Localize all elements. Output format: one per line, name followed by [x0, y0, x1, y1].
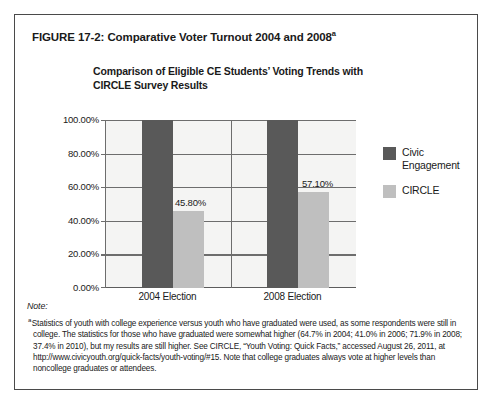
- figure-caption-superscript: a: [332, 29, 336, 38]
- chart-legend: Civic Engagement CIRCLE: [383, 146, 475, 211]
- note-body-text: Statistics of youth with college experie…: [32, 319, 462, 374]
- legend-swatch-icon: [383, 147, 396, 160]
- bar-civic-engagement-2004[interactable]: [142, 120, 173, 288]
- tick-mark: [101, 287, 106, 288]
- note-heading: Note:: [27, 301, 467, 311]
- y-tick-label: 60.00%: [35, 182, 99, 192]
- tick-mark: [101, 221, 106, 222]
- y-tick-label: 80.00%: [35, 149, 99, 159]
- tick-mark: [101, 154, 106, 155]
- figure-caption-text: FIGURE 17-2: Comparative Voter Turnout 2…: [32, 31, 332, 43]
- note-block: Note: aStatistics of youth with college …: [27, 301, 467, 375]
- tick-mark: [101, 120, 106, 121]
- data-label-circle-2004: 45.80%: [175, 197, 206, 208]
- y-tick-label: 100.00%: [35, 115, 99, 125]
- bar-civic-engagement-2008[interactable]: [267, 120, 298, 288]
- tick-mark: [101, 187, 106, 188]
- note-text: aStatistics of youth with college experi…: [27, 314, 467, 375]
- legend-swatch-icon: [383, 185, 396, 198]
- legend-label: Civic Engagement: [402, 146, 475, 171]
- note-superscript: a: [28, 316, 31, 323]
- figure-box: FIGURE 17-2: Comparative Voter Turnout 2…: [14, 14, 478, 390]
- bar-circle-2008[interactable]: [298, 192, 329, 288]
- chart: Comparison of Eligible CE Students’ Voti…: [15, 51, 477, 301]
- plot-area: 45.80% 57.10%: [105, 120, 356, 288]
- chart-title: Comparison of Eligible CE Students’ Voti…: [93, 64, 383, 92]
- y-axis: 100.00% 80.00% 60.00% 40.00% 20.00% 0.00…: [29, 120, 99, 288]
- legend-item-civic-engagement[interactable]: Civic Engagement: [383, 146, 475, 171]
- tick-mark: [101, 254, 106, 255]
- y-tick-label: 40.00%: [35, 216, 99, 226]
- bar-circle-2004[interactable]: [173, 211, 204, 288]
- data-label-circle-2008: 57.10%: [302, 178, 333, 189]
- legend-item-circle[interactable]: CIRCLE: [383, 184, 475, 198]
- category-separator: [231, 120, 232, 288]
- legend-label: CIRCLE: [402, 184, 439, 197]
- y-tick-label: 20.00%: [35, 249, 99, 259]
- figure-caption: FIGURE 17-2: Comparative Voter Turnout 2…: [32, 29, 336, 43]
- y-tick-label: 0.00%: [35, 283, 99, 293]
